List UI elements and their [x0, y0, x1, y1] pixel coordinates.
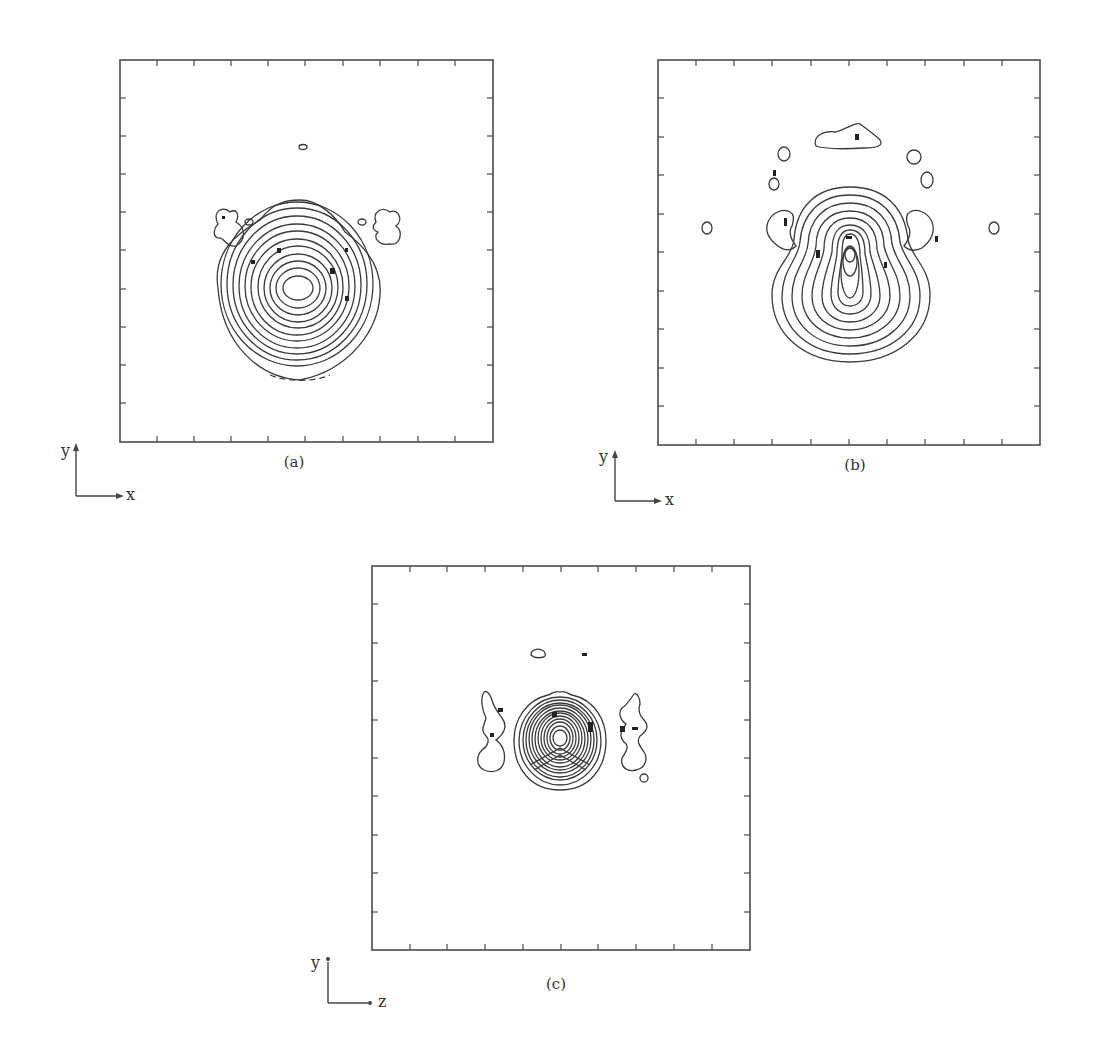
axis-label-c-horizontal: z [378, 994, 386, 1010]
axis-key-c [0, 0, 420, 1050]
caption-b: (b) [825, 456, 885, 474]
axis-label-b-horizontal: x [665, 492, 674, 508]
contours-c [478, 649, 648, 790]
axis-label-c-vertical: y [311, 955, 320, 971]
figure: (a) (b) (c) y x y x y z [0, 0, 1100, 1050]
ticks-c [372, 566, 750, 950]
axis-label-b-vertical: y [599, 449, 608, 465]
plot-frame-c [372, 566, 750, 950]
caption-c: (c) [526, 975, 586, 993]
axis-arrows-c-icon [0, 0, 420, 1050]
